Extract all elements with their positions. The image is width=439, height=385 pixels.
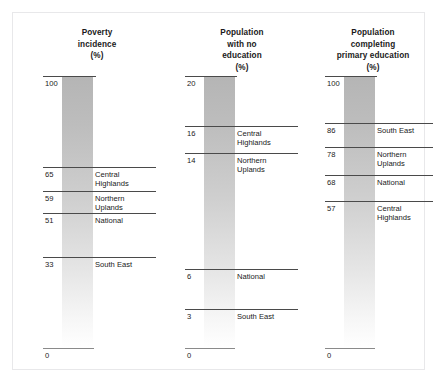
tick-value: 16 xyxy=(187,129,195,138)
tick-line xyxy=(325,76,377,77)
tick-region-label: Northern Uplands xyxy=(237,156,267,175)
panel-title-line: with no xyxy=(173,39,311,51)
tick-value: 68 xyxy=(327,178,335,187)
tick-value: 20 xyxy=(187,79,195,88)
tick-value: 78 xyxy=(327,150,335,159)
tick-line xyxy=(325,147,433,148)
tick-region-label: Northern Uplands xyxy=(377,150,407,169)
tick-line xyxy=(185,153,298,154)
tick-line xyxy=(43,213,156,214)
tick-region-label: Northern Uplands xyxy=(95,194,125,213)
tick-value: 86 xyxy=(327,126,335,135)
panel-title-line: primary education xyxy=(313,50,433,62)
tick-region-label: National xyxy=(95,216,123,226)
tick-value: 65 xyxy=(45,170,53,179)
tick-line xyxy=(325,123,433,124)
tick-line xyxy=(325,201,433,202)
tick-value: 57 xyxy=(327,204,335,213)
axis-baseline xyxy=(43,348,94,349)
gradient-bar xyxy=(344,76,375,348)
panel-title-line: Poverty xyxy=(28,27,166,39)
tick-value: 3 xyxy=(187,312,191,321)
tick-value: 0 xyxy=(327,351,331,360)
tick-value: 100 xyxy=(45,79,58,88)
chart-panels: Povertyincidence(%)10065Central Highland… xyxy=(13,13,424,369)
axis-baseline xyxy=(185,348,235,349)
tick-value: 33 xyxy=(45,260,53,269)
figure-container: Povertyincidence(%)10065Central Highland… xyxy=(12,12,425,370)
tick-region-label: Central Highlands xyxy=(95,170,129,189)
tick-value: 0 xyxy=(45,351,49,360)
tick-value: 100 xyxy=(327,79,340,88)
panel-title: Povertyincidence(%) xyxy=(28,27,166,62)
tick-value: 14 xyxy=(187,156,195,165)
panel-title-line: (%) xyxy=(313,62,433,74)
panel-title-line: (%) xyxy=(28,50,166,62)
tick-region-label: Central Highlands xyxy=(237,129,271,148)
chart-panel-1: Povertyincidence(%)10065Central Highland… xyxy=(28,13,166,369)
gradient-bar xyxy=(62,76,93,348)
tick-region-label: South East xyxy=(237,312,274,322)
panel-title-line: Population xyxy=(313,27,433,39)
tick-value: 51 xyxy=(45,216,53,225)
tick-region-label: National xyxy=(377,178,405,188)
tick-region-label: National xyxy=(237,272,265,282)
tick-value: 59 xyxy=(45,194,53,203)
tick-line xyxy=(43,257,156,258)
panel-title: Populationwith noeducation(%) xyxy=(173,27,311,73)
tick-value: 6 xyxy=(187,272,191,281)
panel-title-line: incidence xyxy=(28,39,166,51)
tick-value: 0 xyxy=(187,351,191,360)
tick-line xyxy=(43,167,156,168)
panel-title-line: (%) xyxy=(173,62,311,74)
tick-line xyxy=(185,309,298,310)
tick-region-label: South East xyxy=(95,260,132,270)
tick-line xyxy=(43,76,96,77)
tick-region-label: Central Highlands xyxy=(377,204,411,223)
panel-title: Populationcompletingprimary education(%) xyxy=(313,27,433,73)
chart-panel-2: Populationwith noeducation(%)2016Central… xyxy=(173,13,311,369)
panel-title-line: Population xyxy=(173,27,311,39)
tick-line xyxy=(185,126,298,127)
tick-region-label: South East xyxy=(377,126,414,136)
tick-line xyxy=(185,269,298,270)
tick-line xyxy=(185,76,237,77)
tick-line xyxy=(43,191,156,192)
panel-title-line: education xyxy=(173,50,311,62)
tick-line xyxy=(325,175,433,176)
chart-panel-3: Populationcompletingprimary education(%)… xyxy=(313,13,433,369)
axis-baseline xyxy=(325,348,375,349)
gradient-bar xyxy=(204,76,235,348)
panel-title-line: completing xyxy=(313,39,433,51)
